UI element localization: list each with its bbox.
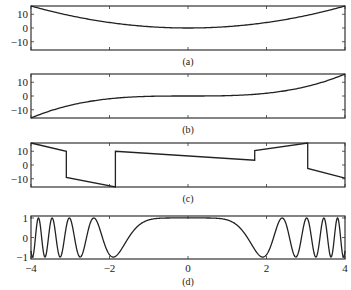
ytick-label: 10	[17, 76, 29, 88]
series-line-d	[31, 218, 345, 257]
caption-c: (c)	[182, 193, 193, 205]
caption-b: (b)	[182, 124, 194, 136]
ytick-label: 0	[23, 232, 29, 244]
ytick-label: 0	[23, 22, 29, 34]
series-line-a	[31, 6, 345, 28]
ytick-label: 0	[23, 90, 29, 102]
xtick-label: 0	[185, 262, 191, 274]
ytick-label: 0	[23, 159, 29, 171]
caption-d: (d)	[182, 276, 194, 288]
series-line-b	[31, 74, 345, 118]
xtick-label: −4	[25, 262, 37, 274]
ytick-label: −10	[11, 36, 29, 48]
axes-box-c	[31, 143, 345, 187]
ytick-label: 10	[17, 145, 29, 157]
ytick-label: 10	[17, 8, 29, 20]
xtick-label: 4	[342, 262, 348, 274]
caption-a: (a)	[182, 56, 193, 68]
xtick-label: −2	[104, 262, 116, 274]
xtick-label: 2	[264, 262, 270, 274]
ytick-label: −10	[11, 104, 29, 116]
ytick-label: 1	[23, 212, 29, 224]
series-line-c	[31, 143, 345, 187]
figure: −10010(a)−10010(b)−10010(c)−101−4−2024(d…	[0, 0, 351, 290]
ytick-label: −10	[11, 173, 29, 185]
